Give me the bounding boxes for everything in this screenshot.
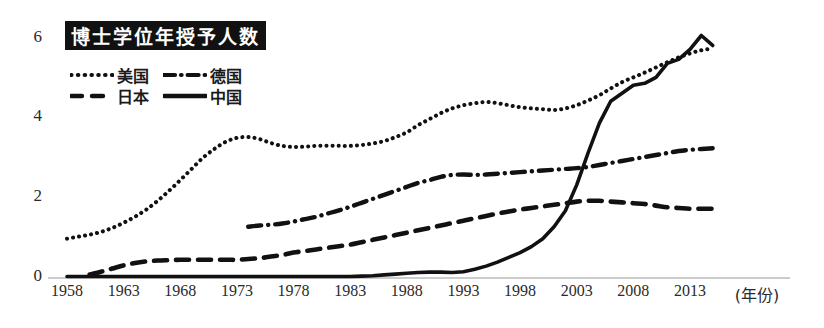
x-tick-1963: 1963 — [94, 282, 154, 300]
x-tick-1993: 1993 — [433, 282, 493, 300]
y-tick-4: 4 — [22, 106, 42, 126]
x-axis-label: (年份) — [722, 282, 792, 306]
x-tick-2003: 2003 — [547, 282, 607, 300]
y-tick-2: 2 — [22, 186, 42, 206]
x-tick-2008: 2008 — [603, 282, 663, 300]
y-tick-6: 6 — [22, 27, 42, 47]
x-tick-2013: 2013 — [660, 282, 720, 300]
x-tick-1973: 1973 — [207, 282, 267, 300]
plot-area — [0, 0, 824, 328]
x-tick-1978: 1978 — [264, 282, 324, 300]
x-tick-1998: 1998 — [490, 282, 550, 300]
x-tick-1958: 1958 — [37, 282, 97, 300]
series-line-美国 — [67, 49, 713, 239]
x-tick-1983: 1983 — [320, 282, 380, 300]
series-line-中国 — [67, 36, 713, 277]
x-tick-1988: 1988 — [377, 282, 437, 300]
x-tick-1968: 1968 — [150, 282, 210, 300]
chart-root: 博士学位年授予人数 美国 德国 日本 — [0, 0, 824, 328]
series-layer — [67, 36, 713, 277]
series-line-日本 — [90, 201, 713, 275]
